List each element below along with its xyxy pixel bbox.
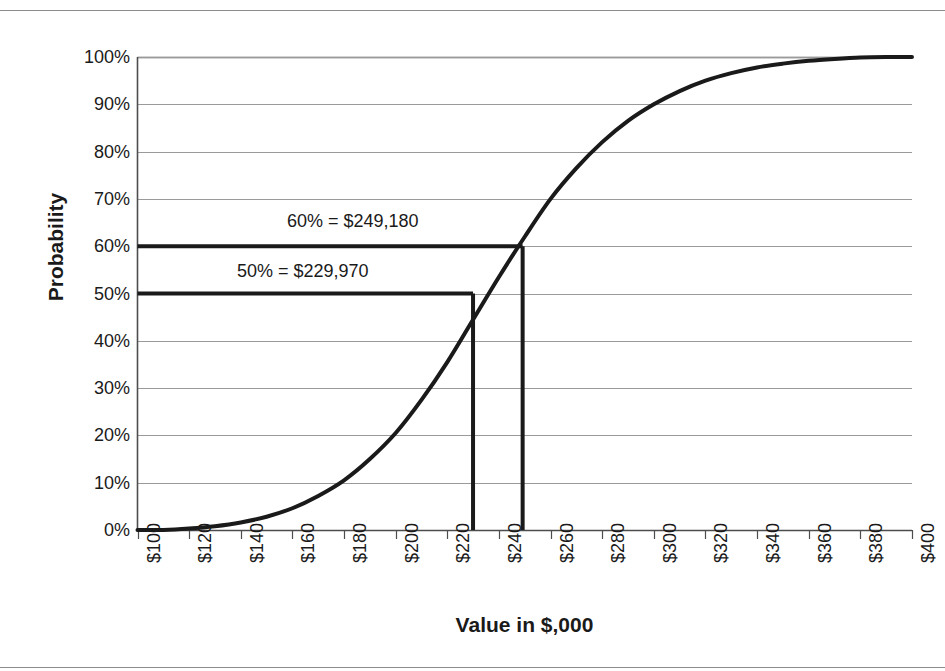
x-tick-label-200: $200 [403,523,421,613]
x-tick-label-320: $320 [712,523,730,613]
x-tick-label-360: $360 [816,523,834,613]
x-tick-label-340: $340 [764,523,782,613]
x-tick-label-220: $220 [454,523,472,613]
x-tick-label-240: $240 [506,523,524,613]
x-axis-title: Value in $,000 [137,613,912,637]
x-tick-label-120: $120 [196,523,214,613]
x-axis-tick-labels: $100$120$140$160$180$200$220$240$260$280… [0,0,945,671]
x-tick-label-380: $380 [867,523,885,613]
x-tick-label-300: $300 [661,523,679,613]
x-tick-label-180: $180 [351,523,369,613]
x-tick-label-400: $400 [919,523,937,613]
annotation-label-50-percent: 50% = $229,970 [237,262,369,280]
x-tick-label-260: $260 [558,523,576,613]
figure-container: 0%10%20%30%40%50%60%70%80%90%100% Probab… [0,0,945,671]
x-tick-label-160: $160 [299,523,317,613]
x-tick-label-100: $100 [145,523,163,613]
x-tick-label-140: $140 [248,523,266,613]
x-tick-label-280: $280 [609,523,627,613]
annotation-label-60-percent: 60% = $249,180 [287,212,419,230]
